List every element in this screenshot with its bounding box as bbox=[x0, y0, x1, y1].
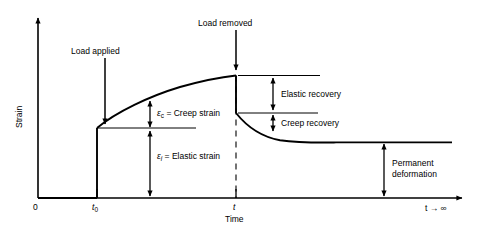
elastic-recovery-label: Elastic recovery bbox=[281, 89, 341, 99]
x-tick-label-t0-subscript: 0 bbox=[94, 206, 98, 213]
elastic-strain-text: = Elastic strain bbox=[165, 151, 221, 161]
elastic-strain-subscript: i bbox=[161, 155, 162, 162]
load-removed-label: Load removed bbox=[198, 18, 252, 28]
x-axis-end-label: t → ∞ bbox=[425, 203, 447, 213]
elastic-strain-label: εi = Elastic strain bbox=[157, 151, 220, 162]
creep-strain-label: εc = Creep strain bbox=[157, 108, 220, 119]
x-tick-label-t-symbol: t bbox=[233, 202, 235, 212]
x-tick-label-t0: t0 bbox=[92, 202, 98, 213]
creep-strain-text: = Creep strain bbox=[166, 108, 220, 118]
creep-strain-subscript: c bbox=[161, 112, 164, 119]
y-axis-label: Strain bbox=[14, 106, 24, 128]
x-axis-ticks bbox=[97, 189, 236, 198]
permanent-deformation-line-1: Permanent bbox=[392, 158, 462, 169]
diagram-canvas bbox=[0, 0, 478, 231]
strain-curve bbox=[38, 76, 452, 199]
x-tick-label-t: t bbox=[233, 202, 235, 212]
creep-recovery-label: Creep recovery bbox=[281, 118, 339, 128]
x-axis-label: Time bbox=[225, 214, 244, 224]
origin-label: 0 bbox=[33, 202, 38, 212]
permanent-deformation-label: Permanent deformation bbox=[392, 158, 462, 179]
creep-strain-diagram: Strain Time 0 t0 t t → ∞ Load applied Lo… bbox=[0, 0, 478, 231]
load-applied-label: Load applied bbox=[71, 46, 120, 56]
permanent-deformation-line-2: deformation bbox=[392, 169, 462, 180]
